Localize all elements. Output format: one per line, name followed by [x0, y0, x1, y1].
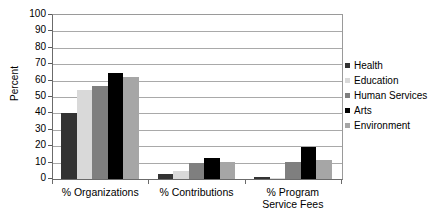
bar	[316, 160, 332, 179]
bar	[77, 90, 93, 179]
bar	[92, 86, 108, 179]
bar	[285, 162, 301, 179]
legend-swatch-icon	[345, 108, 350, 113]
y-axis-tick-mark	[48, 162, 52, 163]
legend-swatch-icon	[345, 123, 350, 128]
legend: HealthEducationHuman ServicesArtsEnviron…	[345, 58, 443, 133]
x-axis-category-label: % ProgramService Fees	[245, 186, 341, 210]
x-axis-category-label-line: Service Fees	[245, 198, 341, 210]
y-axis-tick-mark	[48, 129, 52, 130]
y-axis-tick-label: 90	[22, 25, 46, 35]
bars-layer	[53, 15, 342, 179]
y-axis-tick-label: 20	[22, 140, 46, 150]
y-axis-title: Percent	[9, 54, 20, 114]
x-axis-category-label: % Contributions	[148, 186, 244, 198]
y-axis-tick-label: 60	[22, 75, 46, 85]
legend-item: Health	[345, 58, 443, 73]
legend-label: Health	[354, 60, 383, 71]
x-axis-category-label-line: % Program	[245, 186, 341, 198]
bar	[173, 171, 189, 179]
y-axis-tick-mark	[48, 112, 52, 113]
legend-label: Education	[354, 75, 398, 86]
x-axis-tick-mark	[52, 179, 53, 184]
x-axis-tick-mark	[341, 179, 342, 184]
bar	[204, 158, 220, 179]
plot-area	[52, 14, 343, 180]
y-axis-tick-mark	[48, 30, 52, 31]
legend-item: Education	[345, 73, 443, 88]
y-axis-tick-mark	[48, 80, 52, 81]
bar	[301, 147, 317, 179]
bar	[61, 113, 77, 179]
legend-label: Environment	[354, 120, 410, 131]
y-axis-tick-mark	[48, 47, 52, 48]
y-axis-tick-label: 50	[22, 91, 46, 101]
legend-swatch-icon	[345, 93, 350, 98]
bar	[123, 77, 139, 179]
y-axis-tick-mark	[48, 96, 52, 97]
legend-label: Human Services	[354, 90, 427, 101]
legend-swatch-icon	[345, 63, 350, 68]
x-axis-tick-mark	[148, 179, 149, 184]
y-axis-tick-label: 80	[22, 42, 46, 52]
legend-swatch-icon	[345, 78, 350, 83]
x-axis-category-label: % Organizations	[52, 186, 148, 198]
y-axis-tick-mark	[48, 178, 52, 179]
x-axis-tick-mark	[245, 179, 246, 184]
legend-item: Environment	[345, 118, 443, 133]
y-axis-tick-label: 70	[22, 58, 46, 68]
bar	[108, 73, 124, 179]
legend-label: Arts	[354, 105, 372, 116]
bar	[254, 177, 270, 179]
y-axis-tick-label: 0	[22, 173, 46, 183]
y-axis-tick-label: 100	[22, 9, 46, 19]
x-axis-category-label-line: % Contributions	[148, 186, 244, 198]
y-axis-tick-mark	[48, 14, 52, 15]
y-axis-tick-label: 40	[22, 107, 46, 117]
y-axis-tick-label: 30	[22, 124, 46, 134]
legend-item: Human Services	[345, 88, 443, 103]
x-axis-category-label-line: % Organizations	[52, 186, 148, 198]
y-axis-tick-label: 10	[22, 157, 46, 167]
y-axis-tick-mark	[48, 63, 52, 64]
bar	[270, 178, 286, 179]
legend-item: Arts	[345, 103, 443, 118]
bar	[158, 174, 174, 179]
bar-chart: Percent 0102030405060708090100 % Organiz…	[0, 0, 443, 222]
y-axis-tick-labels: 0102030405060708090100	[22, 14, 46, 178]
bar	[189, 163, 205, 179]
bar	[220, 162, 236, 179]
y-axis-tick-mark	[48, 145, 52, 146]
